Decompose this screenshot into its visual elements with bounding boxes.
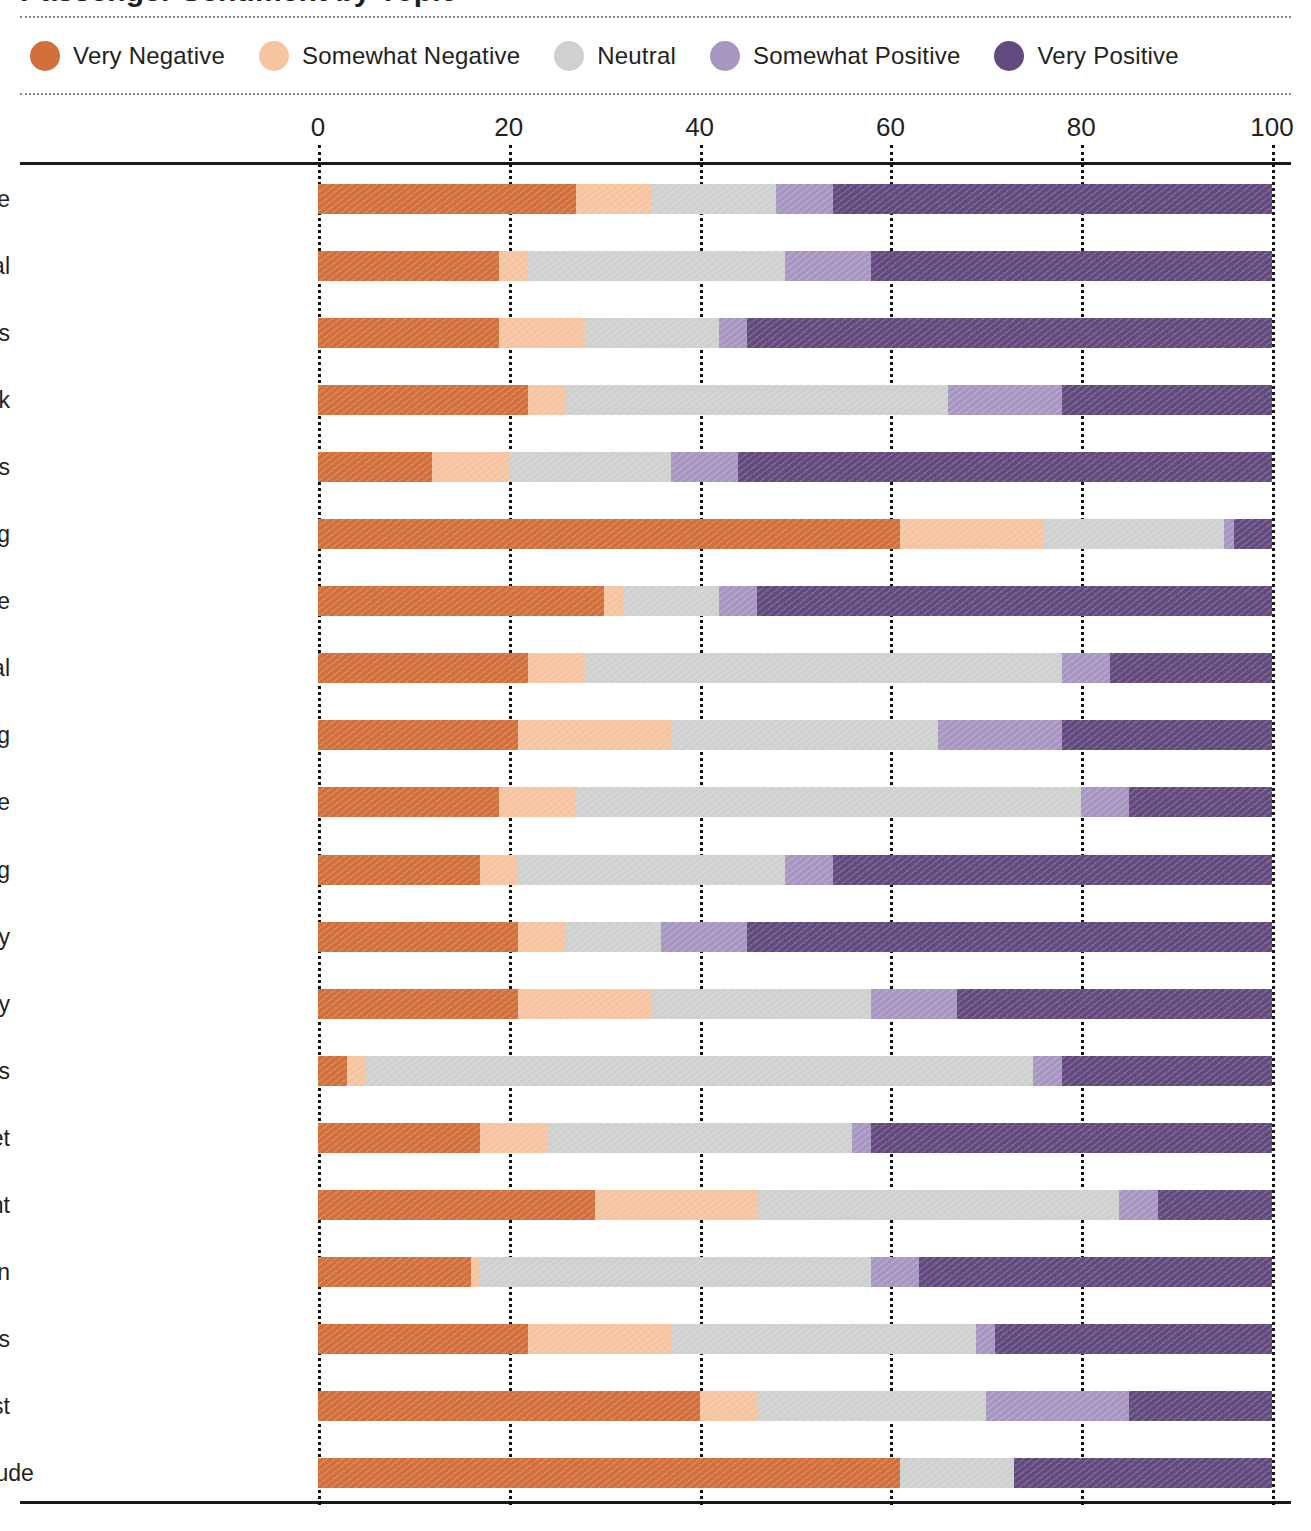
bar-segment[interactable] [318,1056,347,1086]
bar-segment[interactable] [871,989,957,1019]
stacked-bar[interactable] [318,251,1272,281]
bar-segment[interactable] [366,1056,1034,1086]
stacked-bar[interactable] [318,452,1272,482]
bar-segment[interactable] [957,989,1272,1019]
legend-item[interactable]: Somewhat Positive [710,41,961,71]
bar-segment[interactable] [480,855,518,885]
legend-item[interactable]: Neutral [554,41,676,71]
bar-row[interactable]: Wayfinding [20,702,1291,769]
stacked-bar[interactable] [318,1458,1272,1488]
bar-segment[interactable] [318,1458,900,1488]
bar-segment[interactable] [785,251,871,281]
bar-segment[interactable] [1043,519,1224,549]
bar-segment[interactable] [471,1257,481,1287]
bar-segment[interactable] [995,1324,1272,1354]
stacked-bar[interactable] [318,989,1272,1019]
bar-segment[interactable] [1158,1190,1272,1220]
bar-segment[interactable] [719,318,748,348]
bar-segment[interactable] [318,519,900,549]
bar-segment[interactable] [986,1391,1129,1421]
bar-segment[interactable] [318,385,528,415]
bar-row[interactable]: Food & Drink | Quality [20,903,1291,970]
bar-segment[interactable] [318,318,499,348]
bar-row[interactable]: Food & Drink | Variety [20,970,1291,1037]
stacked-bar[interactable] [318,855,1272,885]
bar-segment[interactable] [432,452,508,482]
bar-segment[interactable] [1062,720,1272,750]
bar-segment[interactable] [499,318,585,348]
bar-segment[interactable] [585,318,719,348]
bar-segment[interactable] [499,251,528,281]
bar-segment[interactable] [528,385,566,415]
bar-segment[interactable] [318,989,518,1019]
bar-segment[interactable] [528,251,786,281]
bar-row[interactable]: Food & Drink [20,366,1291,433]
stacked-bar[interactable] [318,1391,1272,1421]
bar-segment[interactable] [738,452,1272,482]
bar-segment[interactable] [318,1257,471,1287]
bar-row[interactable]: Boarding Process [20,1306,1291,1373]
bar-row[interactable]: Internet [20,1104,1291,1171]
bar-segment[interactable] [318,586,604,616]
bar-segment[interactable] [566,385,948,415]
bar-row[interactable]: Staff | Customer Service | Attitude [20,1440,1291,1507]
bar-segment[interactable] [576,184,652,214]
bar-segment[interactable] [700,1391,757,1421]
legend-item[interactable]: Very Negative [30,41,225,71]
bar-row[interactable]: Check-In [20,1239,1291,1306]
bar-segment[interactable] [900,519,1043,549]
bar-segment[interactable] [1014,1458,1272,1488]
bar-segment[interactable] [671,720,938,750]
bar-segment[interactable] [1129,787,1272,817]
bar-segment[interactable] [871,1123,1272,1153]
bar-segment[interactable] [1062,1056,1272,1086]
bar-row[interactable]: Amenities [20,1037,1291,1104]
bar-row[interactable]: Staff | General [20,232,1291,299]
bar-segment[interactable] [585,653,1062,683]
bar-segment[interactable] [318,184,576,214]
bar-segment[interactable] [871,251,1272,281]
stacked-bar[interactable] [318,1257,1272,1287]
bar-segment[interactable] [318,787,499,817]
stacked-bar[interactable] [318,720,1272,750]
bar-segment[interactable] [1119,1190,1157,1220]
bar-row[interactable]: Baggage | Management [20,1172,1291,1239]
bar-segment[interactable] [900,1458,1014,1488]
bar-segment[interactable] [318,251,499,281]
stacked-bar[interactable] [318,1056,1272,1086]
bar-segment[interactable] [757,1391,986,1421]
bar-segment[interactable] [652,184,776,214]
bar-segment[interactable] [347,1056,366,1086]
bar-segment[interactable] [518,720,671,750]
stacked-bar[interactable] [318,922,1272,952]
bar-segment[interactable] [833,184,1272,214]
bar-segment[interactable] [318,1324,528,1354]
bar-segment[interactable] [938,720,1062,750]
bar-row[interactable]: Baggage [20,769,1291,836]
bar-segment[interactable] [318,720,518,750]
bar-segment[interactable] [871,1257,919,1287]
bar-segment[interactable] [757,1190,1120,1220]
bar-segment[interactable] [1129,1391,1272,1421]
legend-item[interactable]: Very Positive [994,41,1178,71]
bar-row[interactable]: Staff | General | Attitude [20,568,1291,635]
bar-segment[interactable] [671,1324,976,1354]
bar-row[interactable]: Food & Drink | Cost [20,1373,1291,1440]
bar-segment[interactable] [1234,519,1272,549]
bar-segment[interactable] [1062,653,1110,683]
bar-row[interactable]: Attitude [20,165,1291,232]
stacked-bar[interactable] [318,787,1272,817]
bar-segment[interactable] [833,855,1272,885]
bar-segment[interactable] [661,922,747,952]
bar-segment[interactable] [1062,385,1272,415]
legend-item[interactable]: Somewhat Negative [259,41,520,71]
bar-segment[interactable] [318,1123,480,1153]
bar-segment[interactable] [719,586,757,616]
bar-segment[interactable] [576,787,1082,817]
bar-segment[interactable] [1110,653,1272,683]
bar-segment[interactable] [566,922,661,952]
stacked-bar[interactable] [318,1123,1272,1153]
bar-segment[interactable] [318,855,480,885]
bar-segment[interactable] [480,1257,871,1287]
stacked-bar[interactable] [318,1324,1272,1354]
